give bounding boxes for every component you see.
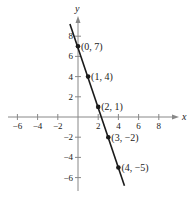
y-tick-label: 6 (69, 51, 74, 61)
data-point (116, 165, 121, 170)
x-tick-label: 6 (136, 121, 141, 131)
ticks (17, 36, 158, 177)
y-tick-label: 2 (69, 92, 74, 102)
y-axis-label: y (74, 3, 80, 14)
x-axis-arrow-icon (172, 115, 179, 120)
x-tick-label: −2 (53, 121, 63, 131)
y-tick-label: 8 (69, 31, 74, 41)
y-tick-label: −4 (63, 152, 73, 162)
data-point-label: (1, 4) (91, 71, 113, 83)
data-point (96, 105, 101, 110)
y-tick-label: −6 (63, 173, 73, 183)
data-point-label: (0, 7) (81, 41, 103, 53)
data-point-label: (3, −2) (111, 132, 138, 144)
x-tick-label: 2 (96, 121, 101, 131)
x-tick-label: −6 (13, 121, 23, 131)
data-point (76, 44, 81, 49)
labels: xy−6−4−22468−6−4−22468(0, 7)(1, 4)(2, 1)… (13, 3, 187, 183)
data-point (106, 135, 111, 140)
x-tick-label: 8 (157, 121, 162, 131)
x-tick-label: −4 (33, 121, 43, 131)
data-point (86, 74, 91, 79)
data-point-label: (2, 1) (101, 101, 123, 113)
y-axis-arrow-icon (76, 16, 81, 23)
data-point-label: (4, −5) (121, 162, 148, 174)
y-tick-label: 4 (69, 72, 74, 82)
x-tick-label: 4 (116, 121, 121, 131)
x-axis-label: x (181, 111, 187, 122)
line-chart: xy−6−4−22468−6−4−22468(0, 7)(1, 4)(2, 1)… (0, 0, 194, 199)
y-tick-label: −2 (63, 132, 73, 142)
